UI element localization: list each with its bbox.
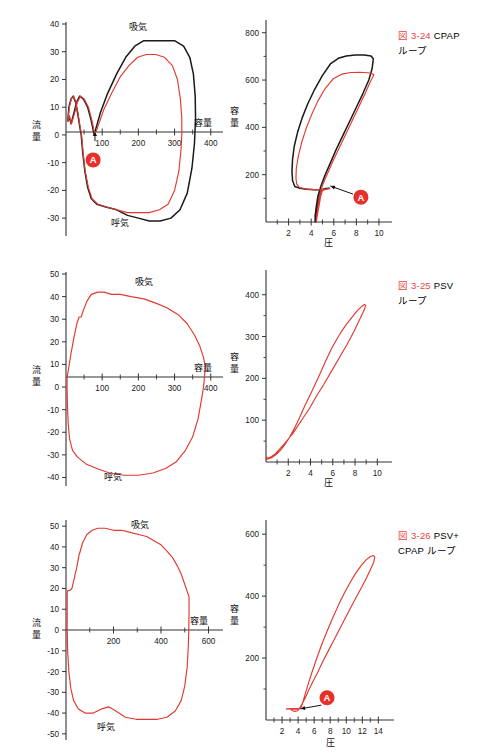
- svg-text:呼気: 呼気: [97, 721, 115, 732]
- svg-text:0: 0: [54, 131, 59, 140]
- svg-text:4: 4: [296, 727, 301, 736]
- x-axis-label: 圧: [326, 738, 335, 748]
- svg-text:-30: -30: [47, 451, 59, 460]
- axes: [66, 272, 223, 486]
- svg-text:20: 20: [50, 584, 60, 593]
- figure-number: 図 3-26: [398, 530, 431, 541]
- figure-title: PSV+: [434, 530, 459, 541]
- tick-marks-and-labels: 403020100-10-20-30100200300400: [47, 20, 218, 223]
- y-axis-label: 流: [32, 364, 41, 375]
- svg-text:30: 30: [50, 48, 60, 57]
- svg-text:400: 400: [245, 592, 259, 601]
- svg-text:40: 40: [50, 543, 60, 552]
- svg-text:10: 10: [342, 727, 352, 736]
- y-axis-label: 流: [32, 617, 41, 628]
- data-series-group: [68, 41, 196, 221]
- svg-text:14: 14: [374, 727, 384, 736]
- caption-line-1: 図 3-26 PSV+: [398, 528, 501, 543]
- svg-text:8: 8: [353, 469, 358, 478]
- pressure-volume-svg: 100200300400246810 容 量 圧: [226, 264, 398, 499]
- chart-fig-3-25-flow-volume: 50403020100-10-20-30-40100200300400 吸気呼気…: [18, 264, 233, 494]
- svg-text:200: 200: [245, 374, 259, 383]
- annotations-group: 吸気呼気: [97, 519, 148, 731]
- svg-text:2: 2: [286, 469, 291, 478]
- svg-text:50: 50: [50, 270, 60, 279]
- svg-text:200: 200: [132, 139, 146, 148]
- x-axis-label: 圧: [324, 238, 333, 248]
- figure-page: 403020100-10-20-30100200300400 吸気呼気A 流 量…: [0, 0, 501, 756]
- data-series-group: [267, 304, 366, 459]
- svg-text:A: A: [324, 692, 331, 703]
- y-axis-label-2: 量: [230, 616, 239, 626]
- svg-text:4: 4: [309, 229, 314, 238]
- y-axis-label-2: 量: [32, 377, 41, 387]
- chart-fig-3-24-pressure-volume: 200400600800246810 A 容 量 圧: [226, 14, 398, 249]
- svg-text:30: 30: [50, 564, 60, 573]
- svg-text:50: 50: [50, 522, 60, 531]
- chart-fig-3-25-pressure-volume: 100200300400246810 容 量 圧: [226, 264, 398, 499]
- axes: [266, 270, 392, 462]
- svg-text:-20: -20: [47, 186, 59, 195]
- caption-fig-3-24: 図 3-24 CPAP ループ: [398, 28, 501, 58]
- caption-fig-3-25: 図 3-25 PSV ループ: [398, 278, 501, 308]
- svg-text:呼気: 呼気: [104, 471, 122, 482]
- svg-text:300: 300: [168, 384, 182, 393]
- figure-number: 図 3-24: [398, 30, 431, 41]
- svg-text:4: 4: [308, 469, 313, 478]
- y-axis-label-2: 量: [230, 118, 239, 128]
- svg-text:100: 100: [245, 416, 259, 425]
- svg-text:300: 300: [245, 333, 259, 342]
- axes: [266, 20, 392, 222]
- svg-text:12: 12: [358, 727, 368, 736]
- svg-text:-40: -40: [47, 473, 59, 482]
- svg-text:10: 10: [374, 229, 384, 238]
- svg-text:吸気: 吸気: [135, 276, 153, 287]
- chart-fig-3-24-flow-volume: 403020100-10-20-30100200300400 吸気呼気A 流 量…: [18, 14, 233, 244]
- svg-text:-10: -10: [47, 406, 59, 415]
- caption-fig-3-26: 図 3-26 PSV+ CPAP ループ: [398, 528, 501, 558]
- figure-fig-3-24: 403020100-10-20-30100200300400 吸気呼気A 流 量…: [0, 0, 501, 252]
- figure-title: CPAP: [434, 30, 460, 41]
- svg-text:300: 300: [168, 139, 182, 148]
- figure-fig-3-25: 50403020100-10-20-30-40100200300400 吸気呼気…: [0, 250, 501, 502]
- axes: [66, 22, 223, 236]
- svg-text:A: A: [357, 192, 364, 203]
- flow-volume-svg: 403020100-10-20-30100200300400 吸気呼気A 流 量…: [18, 14, 233, 244]
- svg-text:8: 8: [328, 727, 333, 736]
- y-axis-label: 容: [230, 351, 239, 362]
- svg-text:-50: -50: [47, 730, 59, 739]
- svg-text:400: 400: [154, 637, 168, 646]
- svg-text:-20: -20: [47, 428, 59, 437]
- svg-text:-40: -40: [47, 709, 59, 718]
- figure-number: 図 3-25: [398, 280, 431, 291]
- svg-text:800: 800: [245, 29, 259, 38]
- caption-line-1: 図 3-24 CPAP: [398, 28, 501, 43]
- x-axis-label: 圧: [324, 478, 333, 488]
- caption-line-2: ループ: [398, 43, 501, 58]
- svg-text:2: 2: [280, 727, 285, 736]
- annotations-group: 吸気呼気A: [86, 21, 148, 229]
- x-axis-label: 容量: [194, 117, 212, 128]
- figure-title: PSV: [434, 280, 454, 291]
- axes: [266, 520, 394, 720]
- y-axis-label-2: 量: [32, 132, 41, 142]
- svg-text:-30: -30: [47, 688, 59, 697]
- svg-text:8: 8: [354, 229, 359, 238]
- svg-text:200: 200: [107, 637, 121, 646]
- svg-text:600: 600: [245, 76, 259, 85]
- svg-text:A: A: [90, 154, 97, 165]
- svg-text:30: 30: [50, 315, 60, 324]
- svg-text:吸気: 吸気: [131, 519, 149, 530]
- svg-text:-30: -30: [47, 214, 59, 223]
- svg-text:呼気: 呼気: [111, 217, 129, 228]
- svg-text:-10: -10: [47, 159, 59, 168]
- flow-volume-svg: 50403020100-10-20-30-40-50200400600 吸気呼気…: [18, 514, 233, 749]
- pressure-volume-svg: 2004006002468101214 A 容 量 圧: [226, 514, 398, 754]
- svg-text:40: 40: [50, 20, 60, 29]
- svg-text:20: 20: [50, 338, 60, 347]
- annotations-group: 吸気呼気: [104, 276, 153, 481]
- figure-fig-3-26: 50403020100-10-20-30-40-50200400600 吸気呼気…: [0, 500, 501, 756]
- svg-text:6: 6: [312, 727, 317, 736]
- chart-fig-3-26-pressure-volume: 2004006002468101214 A 容 量 圧: [226, 514, 398, 754]
- data-series-group: [67, 528, 189, 719]
